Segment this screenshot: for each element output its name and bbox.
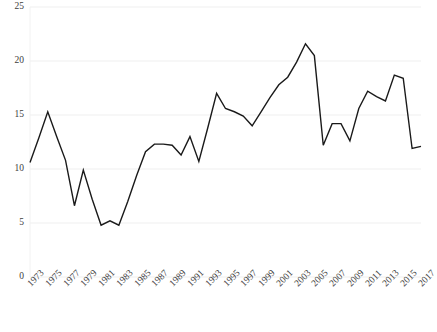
- y-tick-label: 0: [2, 272, 24, 282]
- gridline-group: [30, 7, 421, 277]
- y-tick-label: 20: [2, 56, 24, 66]
- y-tick-label: 25: [2, 2, 24, 12]
- y-tick-label: 15: [2, 110, 24, 120]
- y-axis-tick-labels: 0510152025: [0, 0, 24, 332]
- data-series-line: [30, 44, 421, 225]
- y-tick-label: 10: [2, 164, 24, 174]
- y-tick-label: 5: [2, 218, 24, 228]
